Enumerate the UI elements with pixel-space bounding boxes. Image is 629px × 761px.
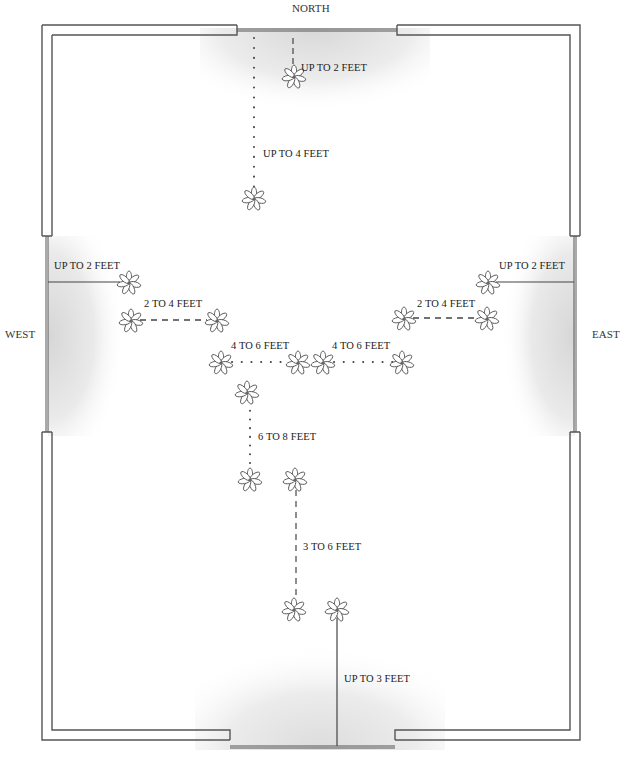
plant-icon [238,468,263,492]
zone-label-north-far: UP TO 4 FEET [263,148,329,160]
zone-label-north-near: UP TO 2 FEET [301,62,367,74]
zone-label-west-far: 4 TO 6 FEET [231,340,289,352]
zone-label-center: 6 TO 8 FEET [258,431,316,443]
compass-north-label: NORTH [292,2,330,14]
zone-label-south-mid: 3 TO 6 FEET [303,541,361,553]
zone-label-east-near: UP TO 2 FEET [499,260,565,272]
zone-label-east-mid: 2 TO 4 FEET [417,298,475,310]
zone-label-west-near: UP TO 2 FEET [54,260,120,272]
plant-icon [286,351,311,375]
zone-label-west-mid: 2 TO 4 FEET [144,298,202,310]
compass-east-label: EAST [592,328,620,340]
floor-plan-svg [0,0,629,761]
west-window [46,236,48,432]
plant-icon [392,307,417,331]
zone-label-south-near: UP TO 3 FEET [344,673,410,685]
floor-plan-diagram: NORTH WEST EAST UP TO 2 FEET UP TO 4 FEE… [0,0,629,761]
plant-icon [235,381,260,405]
plant-icon [209,351,234,375]
zone-label-east-far: 4 TO 6 FEET [332,340,390,352]
window-light-shading [48,28,575,750]
plant-icon [390,351,415,375]
plant-icon [311,351,336,375]
compass-west-label: WEST [5,328,35,340]
plant-icon [242,187,267,211]
plant-icon [283,468,308,492]
plant-icon [205,309,230,333]
